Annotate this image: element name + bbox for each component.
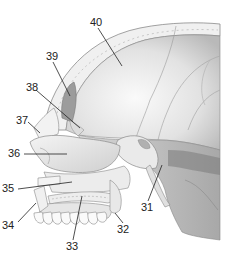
label-35: 35 bbox=[2, 183, 14, 194]
label-38: 38 bbox=[26, 82, 38, 93]
label-39: 39 bbox=[46, 51, 58, 62]
label-33: 33 bbox=[66, 241, 78, 252]
label-34: 34 bbox=[2, 220, 14, 231]
label-36: 36 bbox=[8, 148, 20, 159]
label-40: 40 bbox=[90, 17, 102, 28]
teeth bbox=[34, 212, 107, 224]
label-37: 37 bbox=[16, 115, 28, 126]
label-31: 31 bbox=[141, 202, 153, 213]
skull-illustration bbox=[0, 0, 236, 258]
label-32: 32 bbox=[117, 224, 129, 235]
skull-diagram: 40 39 38 37 36 35 34 33 32 31 bbox=[0, 0, 236, 258]
